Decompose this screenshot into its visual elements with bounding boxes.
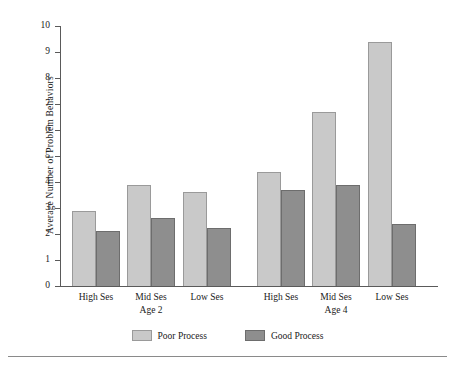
bars-layer	[61, 26, 438, 286]
legend-swatch-good-process	[245, 330, 265, 341]
y-axis-tick-label: 10	[0, 21, 50, 31]
bar	[151, 218, 175, 286]
x-axis-category-label: Low Ses	[167, 291, 247, 303]
bar-chart-figure: Average Number of Problem Behaviors 1098…	[0, 0, 455, 369]
bar	[207, 228, 231, 287]
x-axis-line	[60, 286, 438, 287]
y-axis-tick-label: 8	[0, 73, 50, 83]
y-axis-tick-label: 2	[0, 229, 50, 239]
legend-swatch-poor-process	[132, 330, 152, 341]
y-axis-tick	[55, 78, 60, 79]
bar	[312, 112, 336, 286]
y-axis-tick-label: 1	[0, 255, 50, 265]
bar	[72, 211, 96, 286]
legend-label-good-process: Good Process	[271, 331, 324, 341]
legend-item-poor-process: Poor Process	[132, 330, 207, 341]
y-axis-tick-label: 9	[0, 47, 50, 57]
y-axis-tick	[55, 26, 60, 27]
y-axis-tick	[55, 260, 60, 261]
y-axis-tick-label: 6	[0, 125, 50, 135]
y-axis-tick	[55, 182, 60, 183]
bar	[96, 231, 120, 286]
bar	[336, 185, 360, 286]
legend-label-poor-process: Poor Process	[158, 331, 207, 341]
y-axis-tick	[55, 234, 60, 235]
y-axis-tick	[55, 52, 60, 53]
bar	[127, 185, 151, 286]
y-axis-tick-label: 4	[0, 177, 50, 187]
chart-legend: Poor Process Good Process	[0, 330, 455, 341]
y-axis-tick	[55, 156, 60, 157]
legend-item-good-process: Good Process	[245, 330, 324, 341]
bar	[183, 192, 207, 286]
bar	[281, 190, 305, 286]
bar	[368, 42, 392, 286]
x-axis-group-label: Age 4	[296, 304, 376, 316]
y-axis-tick	[55, 286, 60, 287]
y-axis-tick-label: 0	[0, 281, 50, 291]
y-axis-tick-label: 3	[0, 203, 50, 213]
y-axis-tick	[55, 130, 60, 131]
y-axis-tick	[55, 104, 60, 105]
x-axis-group-label: Age 2	[111, 304, 191, 316]
bar	[257, 172, 281, 286]
y-axis-tick-label: 7	[0, 99, 50, 109]
y-axis-tick	[55, 208, 60, 209]
footer-divider	[8, 356, 447, 357]
y-axis-tick-label: 5	[0, 151, 50, 161]
x-axis-category-label: Low Ses	[352, 291, 432, 303]
bar	[392, 224, 416, 286]
